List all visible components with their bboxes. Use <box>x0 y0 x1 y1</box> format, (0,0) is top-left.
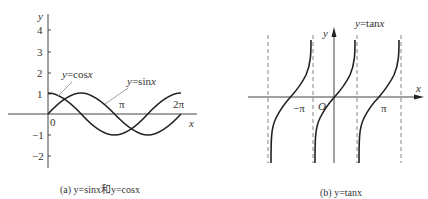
origin-zero-label: 0 <box>50 116 56 128</box>
y-tick-1: 1 <box>37 88 43 100</box>
y-tick-neg2: −2 <box>32 150 44 162</box>
y-axis-label: y <box>37 10 43 22</box>
caption-b: (b) y=tanx <box>320 187 362 199</box>
pi-label: π <box>381 102 387 114</box>
chart-sin-cos: y 4 3 2 1 −1 −2 0 π 2π x y=cosx y=sinx (… <box>8 10 197 196</box>
y-axis-arrow-icon <box>332 27 337 37</box>
two-pi-label: 2π <box>173 98 185 110</box>
x-axis-label: x <box>415 82 421 94</box>
y-tick-3: 3 <box>37 46 43 58</box>
tan-label: y=tanx <box>354 17 385 29</box>
x-axis-arrow-icon <box>414 95 424 100</box>
chart-tan: y x O −π π y=tanx (b) y=tanx <box>248 17 424 199</box>
y-axis-label: y <box>322 27 328 39</box>
sin-label: y=sinx <box>126 75 156 87</box>
x-axis-label: x <box>188 117 194 129</box>
neg-pi-label: −π <box>293 102 305 114</box>
tan-branch-right <box>359 40 399 163</box>
figure: y 4 3 2 1 −1 −2 0 π 2π x y=cosx y=sinx (… <box>0 0 428 199</box>
tan-branch-left <box>271 40 311 163</box>
cos-leader <box>58 82 72 96</box>
y-tick-2: 2 <box>37 67 43 79</box>
y-tick-neg1: −1 <box>32 129 44 141</box>
y-tick-4: 4 <box>37 24 43 36</box>
caption-a: (a) y=sinx和y=cosx <box>60 184 140 196</box>
cos-label: y=cosx <box>61 68 93 80</box>
pi-label: π <box>119 98 125 110</box>
